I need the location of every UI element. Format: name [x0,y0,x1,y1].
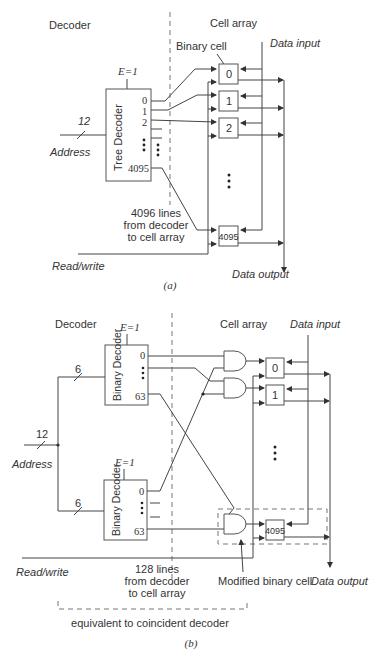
address-split-top [58,377,105,445]
lines-note-b: from decoder [125,575,190,587]
cell-label: 0 [272,362,278,374]
lines-note-a: to cell array [128,231,185,243]
cell-ellipsis [274,446,277,461]
lines-note-b: 128 lines [135,563,180,575]
output-label: 0 [139,486,144,497]
wire-0 [151,69,216,101]
caption-a: (a) [164,279,177,292]
split-width-top: 6 [75,363,81,375]
modified-cell-pointer [241,540,243,572]
cell-label: 0 [226,68,232,80]
binary-cell-label: Binary cell [176,40,227,52]
wire-2 [151,120,216,122]
ellipsis-dots [141,502,144,515]
address-width-a: 12 [78,115,90,127]
cell-array-heading-b: Cell array [220,318,268,330]
lines-note-a: 4096 lines [131,207,182,219]
address-width-b: 12 [36,428,48,440]
wire-1 [151,95,216,110]
memory-decoder-diagram: Decoder Cell array Binary cell Data inpu… [0,0,382,655]
cell-label: 1 [226,95,232,107]
cell-array-heading-a: Cell array [210,17,258,29]
cell-label: 1 [272,389,278,401]
address-label-b: Address [11,458,53,470]
and-gate-4095 [224,514,246,534]
address-label-a: Address [49,146,91,158]
equivalent-bracket [58,601,247,609]
cell-label: 2 [226,122,232,134]
and-gate-1 [224,378,246,398]
col-wire-0 [147,368,224,491]
output-label-2: 2 [142,117,147,128]
caption-b: (b) [185,637,198,650]
junction-dot [201,392,204,395]
output-label: 0 [140,350,145,361]
and-gate-0 [224,351,246,371]
cell-ellipsis [228,174,231,189]
decoder-heading-b: Decoder [55,318,97,330]
read-write-label-b: Read/write [16,566,69,578]
data-output-label-b: Data output [311,575,369,587]
cell-label: 4095 [265,526,285,536]
lines-note-a: from decoder [124,219,189,231]
lines-note-b: to cell array [129,587,186,599]
diagram-a: Decoder Cell array Binary cell Data inpu… [49,12,321,292]
output-label: 63 [134,526,145,537]
enable-label-a: E=1 [117,65,138,77]
cell-label: 4095 [218,232,238,242]
split-width-bottom: 6 [75,497,81,509]
modified-cell-label: Modified binary cell [218,575,312,587]
diagram-b: Decoder Cell array Data input E=1 Binary… [11,313,369,650]
output-label-4095: 4095 [128,163,149,174]
decoder-label-bottom: Binary Decoder [110,463,122,536]
data-output-label-a: Data output [232,268,290,280]
output-label-1: 1 [142,106,147,117]
decoder-heading-a: Decoder [49,19,91,31]
output-label-0: 0 [142,95,147,106]
tree-decoder-label: Tree Decoder [112,104,124,171]
decoder-label-top: Binary Decoder [111,328,123,401]
ellipsis-dots [142,367,145,380]
read-write-label-a: Read/write [52,260,105,272]
output-label: 63 [135,391,146,402]
row-wire-63 [148,394,234,508]
data-input-label-a: Data input [270,37,321,49]
equivalent-label: equivalent to coincident decoder [71,617,229,629]
data-input-label-b: Data input [290,318,341,330]
